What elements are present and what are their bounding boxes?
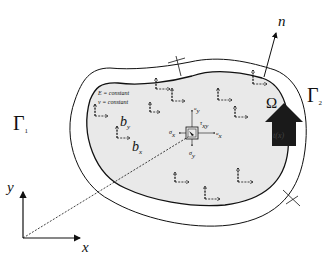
traction-label: t(x) — [273, 132, 284, 140]
omega-label: Ω — [266, 96, 277, 111]
tau-xy-label: τxy — [200, 120, 208, 127]
normal-n-label: n — [278, 14, 286, 29]
sigma-y-label: σy — [189, 150, 195, 157]
x-axis-label: x — [82, 240, 89, 255]
u-x-label: ux — [216, 130, 222, 137]
elasticity-diagram: Γ1 Γ2 n Ω E = constant ν = constant by b… — [0, 0, 331, 261]
u-y-label: uy — [194, 105, 200, 112]
gamma2-label: Γ2 — [307, 85, 322, 105]
gamma1-label: Γ1 — [13, 113, 28, 133]
y-axis-label: y — [7, 180, 14, 195]
nu-constant-label: ν = constant — [98, 99, 128, 105]
body-force-by-label: by — [120, 115, 130, 129]
sigma-x-label: σx — [169, 129, 175, 136]
body-force-bx-label: bx — [132, 140, 142, 154]
e-constant-label: E = constant — [98, 90, 129, 96]
